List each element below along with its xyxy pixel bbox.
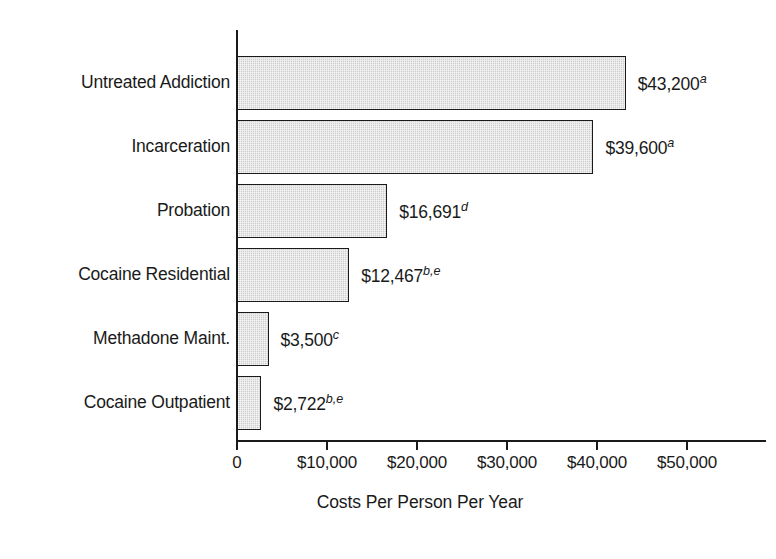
x-tick-mark xyxy=(416,441,418,450)
bar xyxy=(237,120,593,174)
bar-value-label: $2,722b,e xyxy=(273,392,343,415)
bar xyxy=(237,184,387,238)
bar xyxy=(237,248,349,302)
bar xyxy=(237,376,261,430)
x-tick-label: $50,000 xyxy=(657,453,717,473)
x-tick-mark xyxy=(686,441,688,450)
bar xyxy=(237,312,269,366)
category-label: Incarceration xyxy=(131,136,230,157)
x-tick-mark xyxy=(596,441,598,450)
bar-chart: 0$10,000$20,000$30,000$40,000$50,000 Unt… xyxy=(0,0,776,559)
x-tick-label: $20,000 xyxy=(387,453,447,473)
bar-value-label: $43,200a xyxy=(638,72,707,95)
x-tick-label: 0 xyxy=(232,453,241,473)
x-tick-label: $30,000 xyxy=(477,453,537,473)
bar-value-label: $12,467b,e xyxy=(361,264,440,287)
category-label: Probation xyxy=(157,200,230,221)
x-tick-label: $10,000 xyxy=(297,453,357,473)
x-axis-title: Costs Per Person Per Year xyxy=(0,492,776,513)
category-label: Cocaine Residential xyxy=(78,264,230,285)
x-tick-mark xyxy=(236,441,238,450)
x-axis-title-text: Costs Per Person Per Year xyxy=(317,492,524,513)
category-label: Methadone Maint. xyxy=(93,328,230,349)
category-label: Untreated Addiction xyxy=(81,72,230,93)
x-tick-mark xyxy=(326,441,328,450)
x-tick-mark xyxy=(506,441,508,450)
x-tick-label: $40,000 xyxy=(567,453,627,473)
bar-value-label: $39,600a xyxy=(605,136,674,159)
bar xyxy=(237,56,626,110)
category-label: Cocaine Outpatient xyxy=(84,392,230,413)
bar-value-label: $16,691d xyxy=(399,200,468,223)
bar-value-label: $3,500c xyxy=(281,328,340,351)
